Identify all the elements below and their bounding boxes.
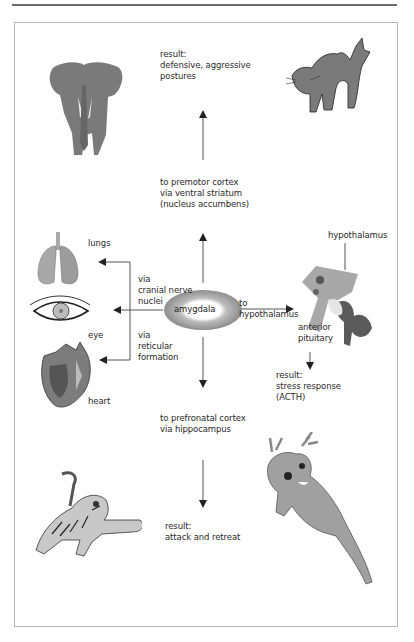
reticular-formation-label: via reticular formation bbox=[138, 330, 178, 363]
eye-image bbox=[28, 295, 92, 325]
lungs-image bbox=[34, 232, 84, 288]
organ-label-eye: eye bbox=[88, 330, 103, 341]
hypothalamus-label: hypothalamus bbox=[328, 230, 387, 241]
deer-image bbox=[262, 432, 392, 592]
to-hypothalamus-label: to hypothalamus bbox=[239, 298, 298, 320]
cranial-nerve-label: via cranial nerve nuclei bbox=[138, 274, 192, 307]
anterior-pituitary-label: anterior pituitary bbox=[298, 322, 333, 344]
organ-label-lungs: lungs bbox=[88, 238, 110, 249]
elephant-image bbox=[34, 55, 134, 165]
prefrontal-pathway-label: to prefronatal cortex via hippocampus bbox=[160, 413, 246, 435]
premotor-pathway-label: to premotor cortex via ventral striatum … bbox=[160, 177, 249, 210]
amygdala-label: amygdala bbox=[174, 304, 215, 315]
frightened-cat-image bbox=[282, 36, 382, 116]
result-attack-label: result: attack and retreat bbox=[165, 521, 240, 543]
result-defensive-label: result: defensive, aggressive postures bbox=[160, 49, 251, 82]
organ-label-heart: heart bbox=[88, 396, 110, 407]
result-stress-label: result: stress response (ACTH) bbox=[276, 370, 341, 403]
tiger-image bbox=[22, 470, 142, 560]
heart-image bbox=[36, 336, 96, 411]
